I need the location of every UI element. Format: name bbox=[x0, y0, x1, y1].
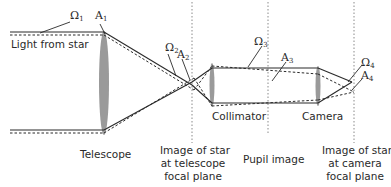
camera-focal-image-label: Image of star at camera focal plane bbox=[322, 144, 388, 183]
a4-label: A4 bbox=[361, 69, 373, 86]
a2-label: A2 bbox=[177, 48, 189, 65]
a1-label: A1 bbox=[95, 9, 107, 26]
optical-diagram: Ω1 A1 Ω2 A2 Ω3 A3 Ω4 A4 Light from star … bbox=[0, 0, 391, 187]
telescope-lens bbox=[99, 31, 109, 135]
telescope-focal-image-label: Image of star at telescope focal plane bbox=[160, 144, 226, 183]
collimator-label: Collimator bbox=[212, 110, 266, 123]
telescope-label: Telescope bbox=[80, 148, 131, 161]
omega3-label: Ω3 bbox=[254, 35, 268, 52]
camera-label: Camera bbox=[302, 110, 343, 123]
pupil-image-label: Pupil image bbox=[243, 153, 304, 166]
light-from-star-label: Light from star bbox=[11, 38, 89, 51]
a3-label: A3 bbox=[281, 51, 293, 68]
omega1-label: Ω1 bbox=[70, 9, 84, 26]
